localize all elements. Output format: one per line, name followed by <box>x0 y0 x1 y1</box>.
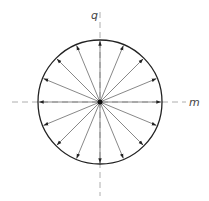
radial-arrow <box>57 59 100 102</box>
center-dot <box>98 100 103 105</box>
radial-arrow <box>100 59 143 102</box>
radial-arrow <box>57 102 100 145</box>
radial-arrow <box>100 102 143 145</box>
radial-field-diagram: q m <box>0 0 209 201</box>
axis-label-q: q <box>91 9 98 22</box>
axis-label-m: m <box>189 96 200 109</box>
